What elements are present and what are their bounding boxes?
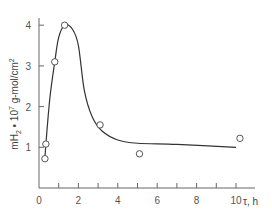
y-axis-title: mH2 • 107 g-mol/cm2 bbox=[8, 58, 22, 149]
x-tick-label: 0 bbox=[36, 195, 42, 206]
y-tick-label: 2 bbox=[25, 102, 31, 113]
x-tick-label: 4 bbox=[115, 195, 121, 206]
y-ticks: 1234 bbox=[25, 20, 44, 153]
x-tick-label: 2 bbox=[76, 195, 82, 206]
fitted-curve bbox=[45, 25, 236, 159]
data-point-circle bbox=[42, 155, 48, 161]
x-tick-label: 10 bbox=[230, 195, 242, 206]
x-ticks: 0246810 bbox=[36, 183, 242, 206]
data-point-circle bbox=[237, 135, 243, 141]
data-point-circle bbox=[43, 141, 49, 147]
curve-path bbox=[45, 25, 236, 159]
y-tick-label: 4 bbox=[25, 20, 31, 31]
data-point-circle bbox=[52, 59, 58, 65]
y-tick-label: 1 bbox=[25, 142, 31, 153]
x-tick-label: 8 bbox=[194, 195, 200, 206]
data-point-circle bbox=[97, 122, 103, 128]
y-tick-label: 3 bbox=[25, 61, 31, 72]
data-point-circle bbox=[136, 151, 142, 157]
data-markers bbox=[42, 22, 243, 162]
x-axis-title: τ, h bbox=[243, 196, 258, 207]
axes: 1234 0246810 bbox=[25, 18, 255, 206]
chart-canvas: 1234 0246810 τ, h mH2 • 107 g-mol/cm2 bbox=[0, 0, 272, 212]
data-point-circle bbox=[61, 22, 67, 28]
x-tick-label: 6 bbox=[154, 195, 160, 206]
